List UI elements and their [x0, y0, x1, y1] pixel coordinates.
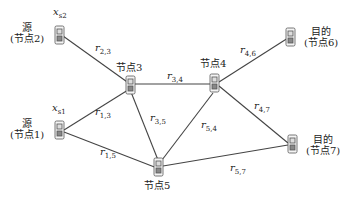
edge-label-r34: r3,4 — [167, 70, 183, 84]
edge-label-r15: r1,5 — [100, 146, 116, 160]
signal-label-node2: xs2 — [53, 6, 67, 22]
edge-label-r46: r4,6 — [240, 44, 256, 58]
edge-5-7 — [163, 145, 288, 166]
phone-icon-node5 — [154, 158, 163, 176]
node6-label: 目的(节点6) — [304, 26, 338, 48]
node3-label: 节点3 — [116, 62, 142, 73]
node7-label: 目的(节点7) — [306, 134, 340, 156]
phone-icon-node6 — [286, 28, 295, 46]
node2-label: 源(节点2) — [10, 22, 44, 44]
edge-label-r57: r5,7 — [230, 162, 246, 176]
edge-3-5 — [131, 92, 158, 160]
node1-label: 源(节点1) — [10, 118, 44, 140]
phone-icon-node1 — [55, 121, 64, 139]
phone-icon-node2 — [55, 26, 64, 44]
signal-label-node1: xs1 — [52, 102, 66, 118]
node4-label: 节点4 — [200, 58, 226, 69]
edge-label-r23: r2,3 — [95, 42, 111, 56]
phone-icon-node3 — [126, 76, 135, 94]
node5-label: 节点5 — [144, 180, 170, 191]
phone-icon-node7 — [288, 135, 297, 153]
edges-layer — [0, 0, 346, 198]
edge-4-7 — [219, 86, 288, 143]
edge-label-r54: r5,4 — [201, 119, 217, 133]
edge-label-r47: r4,7 — [254, 100, 270, 114]
edge-label-r13: r1,3 — [95, 106, 111, 120]
network-diagram: xs2 源(节点2) xs1 源(节点1) 节点3 节点4 节点5 目的(节点6… — [0, 0, 346, 198]
phone-icon-node4 — [210, 74, 219, 92]
edge-label-r35: r3,5 — [150, 112, 166, 126]
